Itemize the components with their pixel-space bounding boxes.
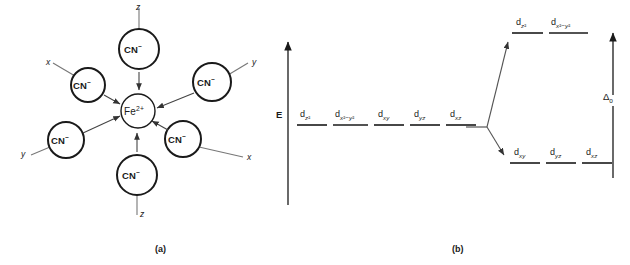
orbital-label-degenerate-dyz: dyz xyxy=(414,110,425,119)
delta-o-label: Δo xyxy=(603,92,613,102)
orbital-label-degenerate-dz2: dz² xyxy=(300,110,310,119)
energy-axis-label: E xyxy=(276,110,282,120)
arrow-to-lower-level xyxy=(487,127,504,155)
caption-panel-a: (a) xyxy=(155,245,166,254)
caption-panel-b: (b) xyxy=(452,245,464,254)
splitting-arrows xyxy=(487,42,508,155)
figure-root: CN− CN− CN− CN− CN− CN− Fe2+ z x y y x z xyxy=(0,0,630,265)
arrow-to-upper-level xyxy=(487,42,508,127)
orbital-label-eg-dz2: dz² xyxy=(516,18,526,27)
orbital-label-degenerate-dxy: dxy xyxy=(378,110,389,119)
orbital-label-degenerate-dx2y2: dx²−y² xyxy=(335,110,354,119)
orbital-label-t2g-dxy: dxy xyxy=(514,148,525,157)
orbital-label-t2g-dyz: dyz xyxy=(550,148,561,157)
panel-b-graphics xyxy=(0,0,630,265)
orbital-label-t2g-dxz: dxz xyxy=(586,148,597,157)
orbital-label-eg-dx2y2: dx²−y² xyxy=(551,18,570,27)
orbital-label-degenerate-dxz: dxz xyxy=(450,110,461,119)
